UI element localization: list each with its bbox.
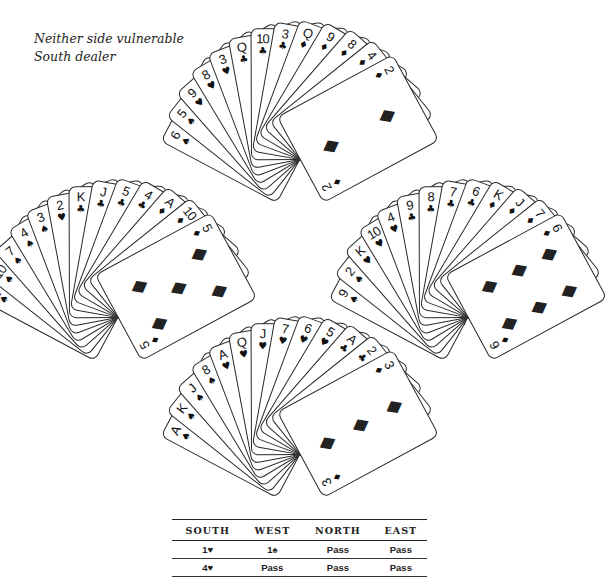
suit-pip-icon: ♦ bbox=[378, 392, 409, 422]
bid: 1♥ bbox=[172, 541, 244, 559]
card-index: 9♣ bbox=[401, 198, 419, 224]
auction-row: 4♥ Pass Pass Pass bbox=[172, 559, 427, 577]
suit-pip-icon: ♦ bbox=[371, 101, 402, 131]
card-rank: 9 bbox=[401, 198, 417, 213]
card-index: 8♣ bbox=[424, 190, 438, 214]
card-index: K♣ bbox=[74, 190, 88, 214]
suit-icon: ♣ bbox=[256, 46, 270, 56]
auction-header-row: SOUTH WEST NORTH EAST bbox=[172, 520, 427, 541]
card-index: Q♥ bbox=[233, 335, 251, 361]
suit-pip-icon: ♦ bbox=[311, 428, 342, 458]
suit-pip-icon: ♦ bbox=[315, 132, 346, 162]
suit-pip-icon: ♦ bbox=[203, 277, 234, 307]
suit-pip-icon: ♦ bbox=[523, 293, 554, 323]
suit-pip-icon: ♦ bbox=[553, 277, 584, 307]
card-index-bottom: 3♦ bbox=[318, 468, 346, 492]
card-rank: 10 bbox=[256, 32, 270, 45]
header-south: SOUTH bbox=[172, 520, 244, 541]
auction-table: SOUTH WEST NORTH EAST 1♥ 1♠ Pass Pass 4♥… bbox=[172, 519, 427, 577]
bid: 1♠ bbox=[244, 541, 302, 559]
card-index: Q♣ bbox=[233, 40, 251, 66]
suit-pip-icon: ♦ bbox=[533, 240, 564, 270]
suit-pip-icon: ♦ bbox=[345, 410, 376, 440]
card-rank: Q bbox=[233, 335, 249, 350]
card-index: 10♣ bbox=[256, 32, 270, 56]
suit-icon: ♥ bbox=[256, 341, 270, 351]
card-index: 6♦ bbox=[539, 218, 567, 242]
suit-pip-icon: ♦ bbox=[503, 256, 534, 286]
bid: Pass bbox=[244, 559, 302, 577]
auction-row: 1♥ 1♠ Pass Pass bbox=[172, 541, 427, 559]
header-west: WEST bbox=[244, 520, 302, 541]
suit-pip-icon: ♦ bbox=[163, 273, 194, 303]
suit-pip-icon: ♦ bbox=[473, 272, 504, 302]
suit-icon: ♣ bbox=[404, 211, 420, 223]
dealer-text: South dealer bbox=[34, 48, 184, 66]
bid: Pass bbox=[375, 541, 427, 559]
card-rank: Q bbox=[233, 40, 249, 55]
suit-icon: ♥ bbox=[54, 211, 70, 223]
card-rank: 2 bbox=[51, 198, 67, 213]
card-index-bottom: 2♦ bbox=[318, 173, 346, 197]
suit-icon: ♣ bbox=[424, 204, 438, 214]
deal-conditions: Neither side vulnerable South dealer bbox=[34, 30, 184, 66]
suit-pip-icon: ♦ bbox=[123, 272, 154, 302]
header-north: NORTH bbox=[301, 520, 375, 541]
card-rank: K bbox=[74, 190, 88, 203]
card-index: J♥ bbox=[256, 327, 270, 351]
card-index: 3♦ bbox=[371, 355, 399, 379]
bid: 4♥ bbox=[172, 559, 244, 577]
card-rank: J bbox=[256, 327, 270, 340]
card-index: 2♥ bbox=[51, 198, 69, 224]
card-rank: 8 bbox=[424, 190, 438, 203]
card-index: 2♦ bbox=[371, 60, 399, 84]
suit-pip-icon: ♦ bbox=[183, 240, 214, 270]
suit-icon: ♣ bbox=[236, 53, 252, 65]
header-east: EAST bbox=[375, 520, 427, 541]
suit-icon: ♥ bbox=[236, 348, 252, 360]
suit-icon: ♣ bbox=[74, 204, 88, 214]
bid: Pass bbox=[301, 541, 375, 559]
card-index: 5♦ bbox=[189, 218, 217, 242]
bid: Pass bbox=[301, 559, 375, 577]
vulnerability-text: Neither side vulnerable bbox=[34, 30, 184, 48]
bid: Pass bbox=[375, 559, 427, 577]
